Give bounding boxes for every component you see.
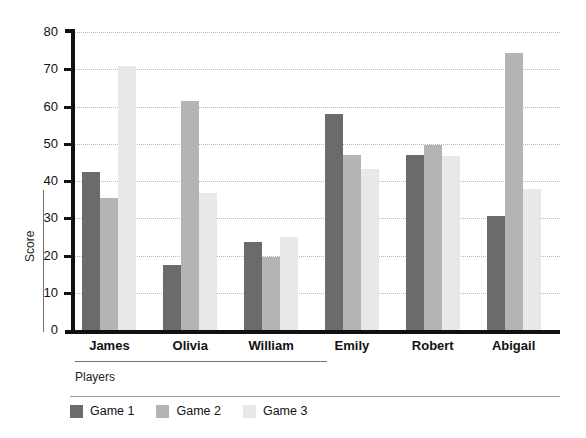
bar-group <box>244 32 298 330</box>
y-tick-label: 10 <box>20 286 58 299</box>
bar-group <box>82 32 136 330</box>
bar[interactable] <box>325 114 343 330</box>
legend-swatch-icon <box>70 405 83 418</box>
bar[interactable] <box>100 198 118 330</box>
bar[interactable] <box>82 172 100 330</box>
legend: Game 1Game 2Game 3 <box>70 404 307 418</box>
bar[interactable] <box>181 101 199 330</box>
bar-group <box>325 32 379 330</box>
bar-group <box>487 32 541 330</box>
x-tick-label: Emily <box>335 338 370 353</box>
legend-item[interactable]: Game 3 <box>243 404 307 418</box>
x-tick-label: Abigail <box>492 338 535 353</box>
x-axis-spine <box>71 330 560 334</box>
legend-item[interactable]: Game 2 <box>156 404 220 418</box>
x-tick-label: William <box>248 338 293 353</box>
y-tick-mark <box>64 143 72 146</box>
legend-swatch-icon <box>243 405 256 418</box>
bar[interactable] <box>523 189 541 330</box>
legend-rule <box>70 396 560 397</box>
legend-label: Game 1 <box>90 404 134 418</box>
bar[interactable] <box>487 216 505 330</box>
plot-area <box>75 32 560 330</box>
bar[interactable] <box>199 193 217 330</box>
y-tick-mark <box>64 106 72 109</box>
x-tick-label: James <box>89 338 129 353</box>
y-tick-label: 60 <box>20 100 58 113</box>
x-tick-label: Olivia <box>173 338 208 353</box>
legend-label: Game 2 <box>176 404 220 418</box>
bar[interactable] <box>424 145 442 330</box>
bar[interactable] <box>361 169 379 330</box>
bar-group <box>406 32 460 330</box>
y-tick-label: 30 <box>20 211 58 224</box>
legend-swatch-icon <box>156 405 169 418</box>
y-tick-mark <box>64 217 72 220</box>
bar[interactable] <box>343 155 361 330</box>
y-axis-top-cap <box>65 29 75 33</box>
y-tick-mark <box>64 292 72 295</box>
bar[interactable] <box>442 156 460 330</box>
y-axis-rule <box>43 190 44 332</box>
bar-group <box>163 32 217 330</box>
y-tick-label: 70 <box>20 62 58 75</box>
bar[interactable] <box>505 53 523 331</box>
bar[interactable] <box>244 242 262 330</box>
y-tick-label: 40 <box>20 174 58 187</box>
x-tick-label: Robert <box>412 338 454 353</box>
bar[interactable] <box>118 66 136 330</box>
y-axis-title: Score <box>23 231 37 262</box>
bar[interactable] <box>163 265 181 330</box>
y-tick-label: 0 <box>20 323 58 336</box>
legend-item[interactable]: Game 1 <box>70 404 134 418</box>
bar[interactable] <box>406 155 424 330</box>
y-tick-mark <box>64 68 72 71</box>
bar[interactable] <box>262 257 280 330</box>
y-tick-mark <box>64 180 72 183</box>
y-tick-label: 80 <box>20 25 58 38</box>
y-tick-label: 50 <box>20 137 58 150</box>
y-tick-mark <box>64 255 72 258</box>
bar[interactable] <box>280 237 298 330</box>
legend-label: Game 3 <box>263 404 307 418</box>
bar-chart: 01020304050607080 JamesOliviaWilliamEmil… <box>0 0 586 438</box>
x-axis-title: Players <box>75 370 115 384</box>
x-axis-rule <box>75 361 327 362</box>
